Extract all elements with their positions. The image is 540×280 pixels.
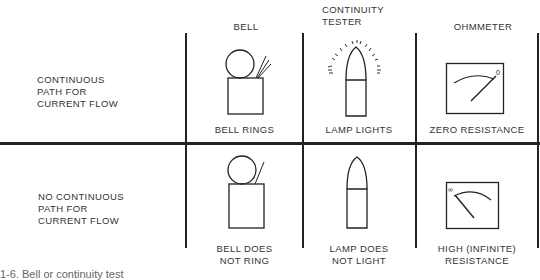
caption-line: NOT LIGHT bbox=[305, 255, 413, 267]
column-header-ohmmeter: OHMMETER bbox=[433, 21, 533, 33]
ohmmeter-infinite-icon: ∞ bbox=[446, 182, 506, 232]
lamp-unlit-icon bbox=[344, 156, 370, 231]
row-label-no-continuous: NO CONTINUOUS PATH FOR CURRENT FLOW bbox=[38, 191, 124, 227]
row-label-line: PATH FOR bbox=[37, 86, 118, 98]
column-divider bbox=[302, 33, 304, 248]
caption-line: HIGH (INFINITE) bbox=[418, 243, 536, 255]
column-divider bbox=[537, 33, 539, 248]
caption-line: NOT RING bbox=[197, 255, 292, 267]
ohmmeter-zero-icon: 0 bbox=[446, 63, 506, 118]
lamp-lit-icon bbox=[326, 30, 386, 120]
row-divider bbox=[0, 142, 540, 145]
column-divider bbox=[185, 33, 187, 248]
caption-line: RESISTANCE bbox=[418, 255, 536, 267]
row-label-line: CURRENT FLOW bbox=[38, 215, 124, 227]
row-label-line: NO CONTINUOUS bbox=[38, 191, 124, 203]
header-line: CONTINUITY bbox=[322, 4, 412, 16]
column-divider bbox=[415, 33, 417, 248]
row-label-line: PATH FOR bbox=[38, 203, 124, 215]
meter-zero-symbol: 0 bbox=[496, 69, 500, 76]
cell-caption: BELL RINGS bbox=[197, 124, 292, 136]
header-line: TESTER bbox=[322, 16, 412, 28]
figure-caption: 1-6. Bell or continuity test bbox=[0, 268, 124, 280]
column-header-bell: BELL bbox=[206, 21, 286, 33]
cell-caption: ZERO RESISTANCE bbox=[418, 124, 536, 136]
bell-ringing-icon bbox=[225, 44, 275, 119]
cell-caption: HIGH (INFINITE) RESISTANCE bbox=[418, 243, 536, 267]
bell-silent-icon bbox=[227, 154, 272, 234]
row-label-line: CURRENT FLOW bbox=[37, 98, 118, 110]
cell-caption: LAMP LIGHTS bbox=[305, 124, 413, 136]
row-label-continuous: CONTINUOUS PATH FOR CURRENT FLOW bbox=[37, 74, 118, 110]
cell-caption: BELL DOES NOT RING bbox=[197, 243, 292, 267]
row-label-line: CONTINUOUS bbox=[37, 74, 118, 86]
caption-line: BELL DOES bbox=[197, 243, 292, 255]
meter-infinite-symbol: ∞ bbox=[448, 186, 453, 193]
column-header-continuity-tester: CONTINUITY TESTER bbox=[322, 4, 412, 28]
caption-line: LAMP DOES bbox=[305, 243, 413, 255]
cell-caption: LAMP DOES NOT LIGHT bbox=[305, 243, 413, 267]
